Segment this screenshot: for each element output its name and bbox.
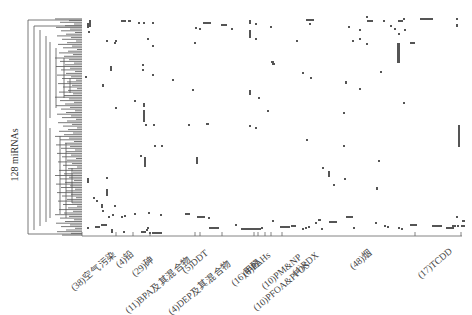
heatmap-cell xyxy=(106,189,108,196)
heatmap-cell xyxy=(291,225,296,227)
heatmap-cell xyxy=(343,145,345,147)
heatmap-cell xyxy=(197,216,205,218)
heatmap-cell xyxy=(344,178,346,180)
heatmap-cell xyxy=(432,225,442,227)
heatmap-cell xyxy=(376,187,378,190)
heatmap-cell xyxy=(270,26,272,28)
heatmap-cell xyxy=(348,26,350,28)
heatmap-cell xyxy=(153,124,155,126)
heatmap-cell xyxy=(121,20,126,22)
heatmap-cell xyxy=(306,139,308,141)
heatmap-cell xyxy=(452,225,456,227)
heatmap-cell xyxy=(235,224,237,226)
heatmap-cell xyxy=(160,214,162,216)
heatmap-cell xyxy=(134,100,136,102)
heatmap-cell xyxy=(195,27,197,29)
heatmap-cell xyxy=(375,222,377,224)
heatmap-cell xyxy=(366,16,368,18)
heatmap-cell xyxy=(251,228,261,230)
heatmap-cell xyxy=(128,20,131,22)
heatmap-cell xyxy=(93,197,95,199)
heatmap-cell xyxy=(85,76,87,78)
heatmap-cell xyxy=(89,20,91,27)
heatmap-cell xyxy=(194,42,196,44)
heatmap-cell xyxy=(101,204,103,208)
heatmap-cell xyxy=(333,184,335,186)
heatmap-cell xyxy=(249,90,251,95)
heatmap-cell xyxy=(249,30,251,38)
heatmap-cell xyxy=(401,228,403,230)
heatmap-cell xyxy=(359,88,361,90)
heatmap-cell xyxy=(462,220,465,222)
heatmap-cell xyxy=(172,79,174,81)
heatmap-cell xyxy=(106,40,108,42)
heatmap-cell xyxy=(142,64,144,66)
heatmap-cell xyxy=(102,84,104,87)
heatmap-cell xyxy=(258,97,260,99)
heatmap-cell xyxy=(112,214,114,216)
heatmap-cell xyxy=(255,38,257,40)
heatmap-cell xyxy=(249,20,251,24)
heatmap-marks xyxy=(85,16,465,234)
heatmap-cell xyxy=(199,28,201,30)
heatmap-cell xyxy=(272,63,275,65)
heatmap-cell xyxy=(315,222,317,224)
heatmap-cell xyxy=(321,228,323,230)
heatmap-cell xyxy=(141,231,146,233)
heatmap-cell xyxy=(161,145,163,147)
heatmap-cell xyxy=(328,171,330,177)
heatmap-cell xyxy=(87,178,89,183)
heatmap-cell xyxy=(196,157,198,164)
heatmap-cell xyxy=(308,226,310,228)
heatmap-cell xyxy=(114,205,116,207)
heatmap-cell xyxy=(384,225,386,227)
heatmap-cell xyxy=(271,61,274,63)
heatmap-cell xyxy=(87,227,89,229)
heatmap-cell xyxy=(144,157,146,167)
y-axis-label: 128 miRNAs xyxy=(4,120,24,190)
heatmap-cell xyxy=(143,22,145,24)
heatmap-cell xyxy=(461,225,465,227)
heatmap-cell xyxy=(221,24,227,26)
heatmap-cell xyxy=(346,216,353,218)
heatmap-cell xyxy=(111,229,113,233)
heatmap-cell xyxy=(343,112,345,114)
heatmap-cell xyxy=(322,167,324,169)
heatmap-cell xyxy=(102,210,104,212)
heatmap-cell xyxy=(456,18,458,20)
heatmap-figure: 128 miRNAs (38)空气污染(4)铅(29)砷(11)BPA及其混合物… xyxy=(0,0,472,315)
heatmap-cell xyxy=(142,69,144,71)
heatmap-cell xyxy=(152,232,162,234)
heatmap-cell xyxy=(390,25,392,27)
heatmap-cell xyxy=(152,22,154,24)
heatmap-cell xyxy=(138,22,140,24)
heatmap-cell xyxy=(329,221,337,223)
heatmap-cell xyxy=(208,217,210,219)
heatmap-cell xyxy=(404,29,406,31)
heatmap-cell xyxy=(280,226,290,228)
heatmap-cell xyxy=(140,155,142,157)
heatmap-cell xyxy=(352,40,354,42)
heatmap-cell xyxy=(255,23,257,25)
heatmap-cell xyxy=(95,226,100,228)
heatmap-cell xyxy=(261,227,263,229)
heatmap-cell xyxy=(383,20,385,22)
heatmap-cell xyxy=(410,42,415,44)
heatmap-cell xyxy=(345,81,347,84)
heatmap-cell xyxy=(366,43,368,45)
heatmap-cell xyxy=(110,66,112,71)
heatmap-cell xyxy=(410,224,417,226)
heatmap-cell xyxy=(309,23,311,25)
heatmap-cell xyxy=(446,227,454,229)
heatmap-cell xyxy=(146,229,148,231)
heatmap-cell xyxy=(359,29,361,31)
heatmap-cell xyxy=(249,125,251,127)
heatmap-cell xyxy=(87,23,89,28)
heatmap-cell xyxy=(403,102,405,104)
heatmap-cell xyxy=(231,28,233,30)
heatmap-cell xyxy=(108,216,110,218)
heatmap-cell xyxy=(387,226,389,228)
heatmap-cell xyxy=(380,71,382,73)
heatmap-cell xyxy=(147,38,149,40)
heatmap-cell xyxy=(310,77,312,79)
